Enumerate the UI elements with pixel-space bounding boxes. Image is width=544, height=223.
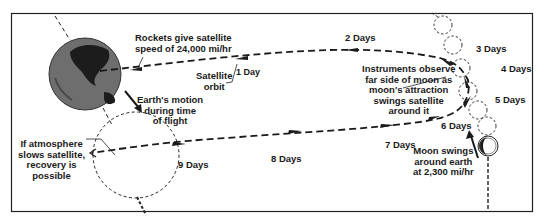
satellite-orbit-label: Satellite orbit <box>196 71 232 92</box>
day-label-6: 6 Days <box>441 121 472 132</box>
day-label-8: 8 Days <box>271 154 302 165</box>
label-line: Rockets give satellite <box>135 33 232 44</box>
day-label-1: 1 Day <box>236 67 260 78</box>
day-label-9: 9 Days <box>178 160 209 171</box>
day-label-7: 7 Days <box>385 140 416 151</box>
label-line: Earth's motion <box>137 95 203 106</box>
moon-swings-label: Moon swings around earth at 2,300 mi/hr <box>413 146 474 178</box>
instruments-label: Instruments observe far side of moon as … <box>362 64 455 117</box>
label-line: at 2,300 mi/hr <box>413 167 474 178</box>
label-line: possible <box>18 171 85 182</box>
label-line: of flight <box>137 116 203 127</box>
earth-motion-label: Earth's motion during time of flight <box>137 95 203 127</box>
day-label-4: 4 Days <box>501 64 532 75</box>
label-line: If atmosphere <box>18 139 85 150</box>
label-line: recovery is <box>18 160 85 171</box>
moon-icon <box>478 136 498 156</box>
arrow-icon <box>345 48 358 52</box>
day-label-5: 5 Days <box>495 95 526 106</box>
label-line: speed of 24,000 mi/hr <box>135 44 232 55</box>
arrow-icon <box>380 124 395 128</box>
day-label-2: 2 Days <box>345 33 376 44</box>
day-label-3: 3 Days <box>476 44 507 55</box>
label-line: moon's attraction <box>362 85 455 96</box>
earth-path-top <box>55 16 70 40</box>
label-line: Moon swings <box>413 146 474 157</box>
label-line: Satellite <box>196 71 232 82</box>
earth-icon <box>49 38 121 110</box>
label-line: around it <box>362 106 455 117</box>
label-line: orbit <box>196 82 232 93</box>
earth-path-bottom <box>137 197 146 215</box>
label-line: Instruments observe <box>362 64 455 75</box>
diagram-canvas <box>0 0 544 223</box>
rockets-label: Rockets give satellite speed of 24,000 m… <box>135 33 232 54</box>
atmosphere-label: If atmosphere slows satellite, recovery … <box>18 139 85 181</box>
